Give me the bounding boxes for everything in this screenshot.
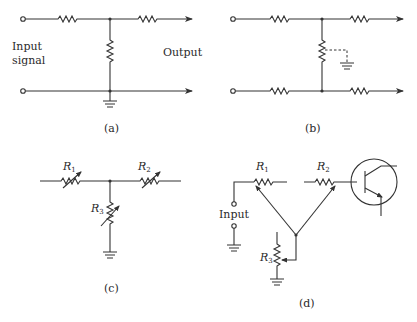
ground-icon — [103, 252, 117, 258]
potentiometer-r1 — [254, 179, 287, 185]
variable-arrow-r1 — [63, 172, 81, 188]
output-label: Output — [163, 46, 203, 59]
top-line-with-series-resistors — [235, 16, 403, 22]
ground-icon — [103, 91, 117, 107]
shunt-resistor — [107, 19, 113, 91]
transistor-icon — [351, 159, 397, 216]
input-terminal-top — [232, 202, 236, 206]
shunt-resistor — [319, 19, 325, 91]
center-tap-dashed — [325, 50, 347, 62]
wiper-r2 — [296, 186, 335, 235]
circuit-figure: Input signal Output (a) (b) R1 R2 R3 (c) — [0, 0, 417, 322]
bottom-line-with-series-resistors — [235, 88, 403, 94]
panel-b: (b) — [231, 16, 403, 135]
input-label: Input — [219, 208, 250, 221]
panel-c: R1 R2 R3 (c) — [40, 160, 181, 295]
caption-d: (d) — [299, 297, 315, 310]
panel-a: Input signal Output (a) — [12, 16, 203, 135]
input-terminal-bottom — [21, 89, 26, 94]
input-terminal-top — [231, 17, 236, 22]
ground-icon — [227, 245, 241, 251]
input-terminal-bottom — [231, 89, 236, 94]
potentiometer-r2 — [304, 179, 357, 185]
input-terminal-top — [21, 17, 26, 22]
wiper-r3 — [282, 235, 296, 260]
input-label-line2: signal — [12, 54, 46, 67]
label-r2: R2 — [137, 160, 151, 174]
input-terminal-bottom — [232, 224, 236, 228]
input-label: Input — [12, 40, 43, 53]
label-r2: R2 — [316, 160, 330, 174]
caption-c: (c) — [104, 282, 119, 295]
ground-icon — [340, 63, 354, 69]
panel-d: Input R1 R2 R3 (d) — [219, 159, 397, 310]
ground-icon — [270, 279, 284, 285]
label-r1: R1 — [62, 160, 76, 174]
input-lead — [234, 182, 254, 202]
wiper-r1 — [256, 186, 296, 235]
potentiometer-r3 — [274, 232, 280, 279]
variable-arrow-r2 — [142, 172, 160, 188]
junction-dot — [320, 89, 323, 92]
caption-b: (b) — [305, 122, 321, 135]
label-r3: R3 — [259, 251, 273, 265]
label-r3: R3 — [90, 202, 104, 216]
caption-a: (a) — [104, 122, 119, 135]
label-r1: R1 — [255, 160, 269, 174]
